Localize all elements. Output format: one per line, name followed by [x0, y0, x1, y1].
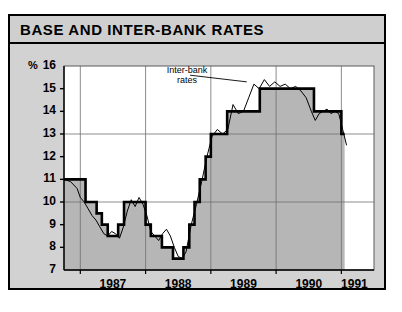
y-axis-tick-label: 14 [18, 103, 56, 117]
y-axis-tick-label: 7 [18, 262, 56, 276]
chart-header: BASE AND INTER-BANK RATES [10, 16, 384, 44]
annotation-line-1: Inter-bank [152, 65, 222, 75]
page-title: BASE AND INTER-BANK RATES [20, 21, 264, 38]
x-axis-tick-label: 1987 [87, 277, 139, 291]
y-axis-tick-label: 8 [18, 239, 56, 253]
x-axis-tick-label: 1989 [217, 277, 269, 291]
y-axis-tick-label: 10 [18, 194, 56, 208]
x-axis-tick-label: 1991 [328, 277, 380, 291]
y-axis-tick-label: 13 [18, 126, 56, 140]
y-axis-tick-label: 11 [18, 171, 56, 185]
y-axis-tick-label: 15 [18, 81, 56, 95]
annotation-inter-bank-rates: Inter-bankrates [152, 65, 222, 85]
x-axis-tick-label: 1990 [283, 277, 335, 291]
y-axis-tick-label: 16 [18, 58, 56, 72]
x-axis-tick-label: 1988 [152, 277, 204, 291]
y-axis-tick-label: 12 [18, 149, 56, 163]
y-axis-tick-label: 9 [18, 217, 56, 231]
annotation-line-2: rates [152, 75, 222, 85]
chart-panel: BASE AND INTER-BANK RATES %7891011121314… [8, 14, 386, 290]
chart-canvas: %7891011121314151619871988198919901991In… [10, 44, 384, 288]
